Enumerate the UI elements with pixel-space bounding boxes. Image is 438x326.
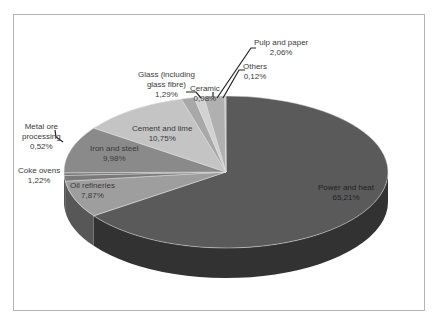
label-metal-ore-processing: Metal ore processing 0,52% (22, 122, 61, 152)
label-iron-and-steel: Iron and steel 9,98% (90, 144, 138, 164)
label-glass: Glass (including glass fibre) 1,29% (138, 70, 195, 100)
label-cement-and-lime: Cement and lime 10,75% (132, 124, 192, 144)
pie-chart (0, 0, 438, 326)
label-oil-refineries: Oil refineries 7,87% (70, 181, 115, 201)
label-pulp-and-paper: Pulp and paper 2,06% (254, 38, 308, 58)
label-ceramic: Ceramic 0,98% (190, 84, 220, 104)
label-power-and-heat: Power and heat 65,21% (318, 183, 374, 203)
label-coke-ovens: Coke ovens 1,22% (18, 166, 60, 186)
label-others: Others 0,12% (243, 62, 267, 82)
